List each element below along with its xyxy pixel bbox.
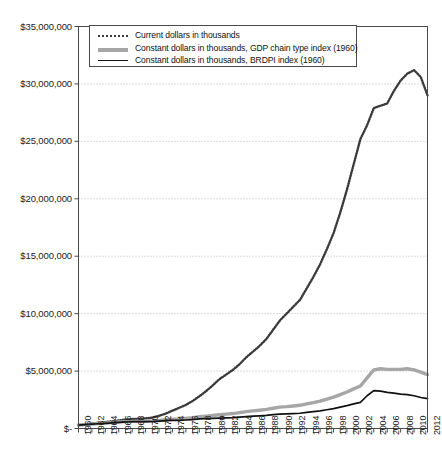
x-axis-tick-label: 1968	[136, 415, 146, 434]
x-axis-tick-label: 1990	[284, 415, 294, 434]
x-axis-tick-label: 1966	[123, 415, 133, 434]
x-axis-tick-label: 1996	[324, 415, 334, 434]
x-axis-tick-label: 1974	[176, 415, 186, 434]
y-axis-tick-label: $25,000,000	[2, 135, 72, 146]
x-axis-tick-label: 2006	[391, 415, 401, 434]
x-axis-tick-label: 2000	[351, 415, 361, 434]
x-axis-tick-label: 1978	[203, 415, 213, 434]
x-axis-tick-label: 2010	[418, 415, 428, 434]
y-axis-tick-label: $35,000,000	[2, 21, 72, 32]
x-axis-tick-label: 1980	[217, 415, 227, 434]
y-axis-tick-label: $5,000,000	[2, 365, 72, 376]
series-line-0	[79, 70, 428, 425]
y-axis-ticks	[75, 27, 79, 429]
x-axis-tick-label: 1982	[230, 415, 240, 434]
x-axis-tick-label: 1998	[338, 415, 348, 434]
legend-item-label: Current dollars in thousands	[135, 30, 240, 40]
gridlines	[79, 84, 428, 371]
chart-legend: Current dollars in thousands Constant do…	[89, 25, 357, 67]
x-axis-tick-label: 1984	[244, 415, 254, 434]
x-axis-tick-label: 1986	[257, 415, 267, 434]
x-axis-tick-label: 1976	[190, 415, 200, 434]
legend-item: Current dollars in thousands	[94, 29, 352, 42]
x-axis-tick-label: 1972	[163, 415, 173, 434]
x-axis-tick-label: 1992	[297, 415, 307, 434]
dotted-line-swatch	[98, 30, 128, 40]
y-axis-tick-label: $15,000,000	[2, 250, 72, 261]
legend-item-label: Constant dollars in thousands, BRDPI ind…	[135, 55, 325, 65]
data-series-layer	[79, 70, 428, 425]
x-axis-tick-label: 2002	[364, 415, 374, 434]
x-axis-tick-label: 1964	[109, 415, 119, 434]
plot-area	[0, 0, 442, 468]
line-chart: $35,000,000$30,000,000$25,000,000$20,000…	[0, 0, 442, 468]
y-axis-tick-label: $10,000,000	[2, 308, 72, 319]
x-axis-tick-label: 1970	[150, 415, 160, 434]
thick-gray-line-swatch	[98, 43, 128, 53]
x-axis-tick-label: 2004	[378, 415, 388, 434]
legend-item-label: Constant dollars in thousands, GDP chain…	[135, 43, 357, 53]
x-axis-tick-label: 1962	[96, 415, 106, 434]
x-axis-tick-label: 2008	[405, 415, 415, 434]
x-axis-tick-label: 1988	[270, 415, 280, 434]
y-axis-tick-label: $30,000,000	[2, 78, 72, 89]
thin-black-line-swatch	[98, 55, 128, 65]
y-axis-tick-label: $20,000,000	[2, 193, 72, 204]
y-axis-tick-label: $-	[2, 423, 72, 434]
x-axis-tick-label: 2012	[432, 415, 442, 434]
legend-item: Constant dollars in thousands, GDP chain…	[94, 42, 352, 55]
x-axis-tick-label: 1994	[311, 415, 321, 434]
legend-item: Constant dollars in thousands, BRDPI ind…	[94, 54, 352, 67]
x-axis-tick-label: 1960	[83, 415, 93, 434]
